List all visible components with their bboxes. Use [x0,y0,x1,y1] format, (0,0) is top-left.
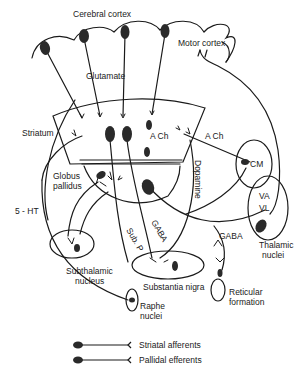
striatal-neuron-3 [140,177,157,196]
legend-pallidal-neuron-icon [73,357,83,364]
label-subthalamic-1: Subthalamic [66,266,113,276]
pallidal-neuron [95,169,107,180]
label-glutamate: Glutamate [86,71,125,81]
label-striatum: Striatum [22,128,54,138]
label-raphe-2: nuclei [140,311,162,321]
label-vl: VL [259,203,269,213]
label-reticular-2: formation [229,297,264,307]
legend-striatal-afferents: Striatal afferents [139,340,201,350]
label-ach-2: A Ch [205,131,223,141]
striatal-neuron-2 [122,126,132,142]
label-cerebral-cortex: Cerebral cortex [73,9,131,19]
cortical-neuron-2 [79,29,89,43]
label-thalamic-1: Thalamic [259,240,293,250]
label-dopamine: Dopamine [193,160,203,199]
label-5ht: 5 - HT [15,206,39,216]
legend-striatal-neuron-icon [73,342,83,349]
label-cm: CM [250,159,263,169]
raphe-neuron [129,298,135,303]
label-ach-1: A Ch [150,131,168,141]
cm-neuron [241,159,249,165]
ach-interneuron-1 [146,120,152,130]
label-raphe-1: Raphe [140,301,165,311]
label-reticular-1: Reticular [229,287,263,297]
reticular-formation [211,279,225,301]
cortical-neuron-1 [38,40,51,56]
cortical-neuron-4 [161,24,170,38]
label-substantia-nigra: Substantia nigra [143,282,204,292]
substantia-nigra [132,251,204,279]
nigral-neuron [172,261,178,271]
thalamic-neuron [253,217,269,234]
legend-pallidal-efferents: Pallidal efferents [139,355,202,365]
ach-interneuron-2 [144,147,150,157]
cortical-neuron-3 [121,25,130,39]
label-globus-2: pallidus [53,181,82,191]
label-motor-cortex: Motor cortex [178,38,225,48]
striatal-neuron-1 [105,126,115,142]
label-gaba-2: GABA [219,231,243,241]
reticular-neuron [218,269,223,277]
label-globus-1: Globus [53,171,80,181]
label-va: VA [259,191,270,201]
gaba-pathway-thalamus [148,186,265,222]
label-subthalamic-2: nucleus [75,276,104,286]
subthalamic-neuron [74,244,80,252]
label-thalamic-2: nuclei [262,250,284,260]
